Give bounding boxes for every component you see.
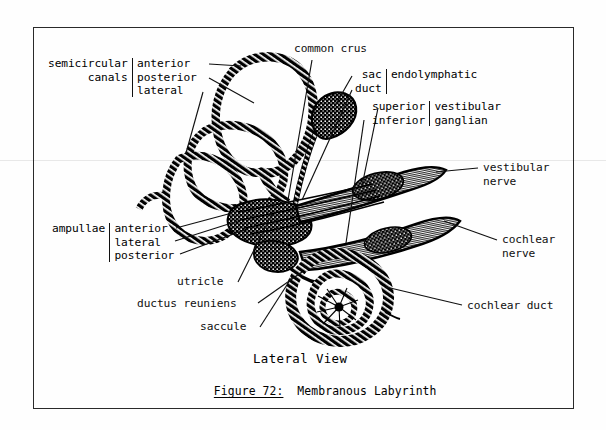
label-inferior-ganglion: inferior [372, 114, 425, 128]
ampullae-brace [109, 223, 110, 262]
label-saccule: saccule [200, 320, 246, 334]
endolymphatic-items: sac duct [355, 68, 382, 95]
endolymphatic-brace [386, 69, 387, 94]
caption-spacer [283, 384, 297, 398]
label-group-semicircular-canals: semicircular canals anterior posterior l… [48, 57, 197, 98]
label-anterior-ampulla: anterior [114, 222, 174, 236]
caption-figure: Figure 72: Membranous Labyrinth [186, 370, 437, 412]
label-lateral-canal: lateral [137, 84, 197, 98]
label-vestibular-ganglian-line1: vestibular [434, 100, 500, 114]
label-superior-ganglion: superior [372, 100, 425, 114]
semicircular-canals-brace [132, 58, 133, 97]
semicircular-canals-label-line2: canals [48, 71, 128, 85]
ampullae-group-label: ampullae [52, 222, 105, 263]
caption-figure-title: Membranous Labyrinth [297, 384, 436, 398]
label-cochlear-duct: cochlear duct [467, 299, 553, 313]
label-posterior-ampulla: posterior [114, 249, 174, 263]
label-utricle: utricle [177, 275, 223, 289]
figure-page: semicircular canals anterior posterior l… [0, 0, 606, 430]
vestibular-ganglian-brace [429, 101, 430, 126]
label-anterior-canal: anterior [137, 57, 197, 71]
label-endolymphatic-duct: duct [355, 82, 382, 96]
label-vestibular-ganglian-line2: ganglian [434, 114, 500, 128]
label-group-endolymphatic: sac duct endolymphatic [355, 68, 477, 95]
label-endolymphatic-sac: sac [355, 68, 382, 82]
label-vestibular-nerve-line2: nerve [483, 175, 516, 189]
semicircular-canals-group-label: semicircular canals [48, 57, 128, 98]
label-common-crus: common crus [294, 42, 367, 56]
label-endolymphatic: endolymphatic [391, 68, 477, 82]
label-ampullae: ampullae [52, 222, 105, 236]
vestibular-ganglian-group-label: vestibular ganglian [434, 100, 500, 127]
label-posterior-canal: posterior [137, 71, 197, 85]
ampullae-items: anterior lateral posterior [114, 222, 174, 263]
label-cochlear-nerve-line2: nerve [502, 247, 535, 261]
semicircular-canals-label-line1: semicircular [48, 57, 128, 71]
caption-figure-number: Figure 72: [214, 384, 284, 398]
label-vestibular-nerve-line1: vestibular [483, 161, 549, 175]
semicircular-canals-items: anterior posterior lateral [137, 57, 197, 98]
label-ductus-reuniens: ductus reuniens [137, 297, 237, 311]
label-group-ampullae: ampullae anterior lateral posterior [52, 222, 174, 263]
caption-view-label: Lateral View [253, 351, 347, 366]
label-cochlear-nerve-line1: cochlear [502, 233, 555, 247]
cochlea-spiral [291, 254, 400, 342]
label-lateral-ampulla: lateral [114, 236, 174, 250]
vestibular-ganglian-items: superior inferior [372, 100, 425, 127]
label-group-vestibular-ganglian: superior inferior vestibular ganglian [372, 100, 501, 127]
cochlear-nerve-trunk [300, 218, 460, 270]
endolymphatic-group-label: endolymphatic [391, 68, 477, 95]
